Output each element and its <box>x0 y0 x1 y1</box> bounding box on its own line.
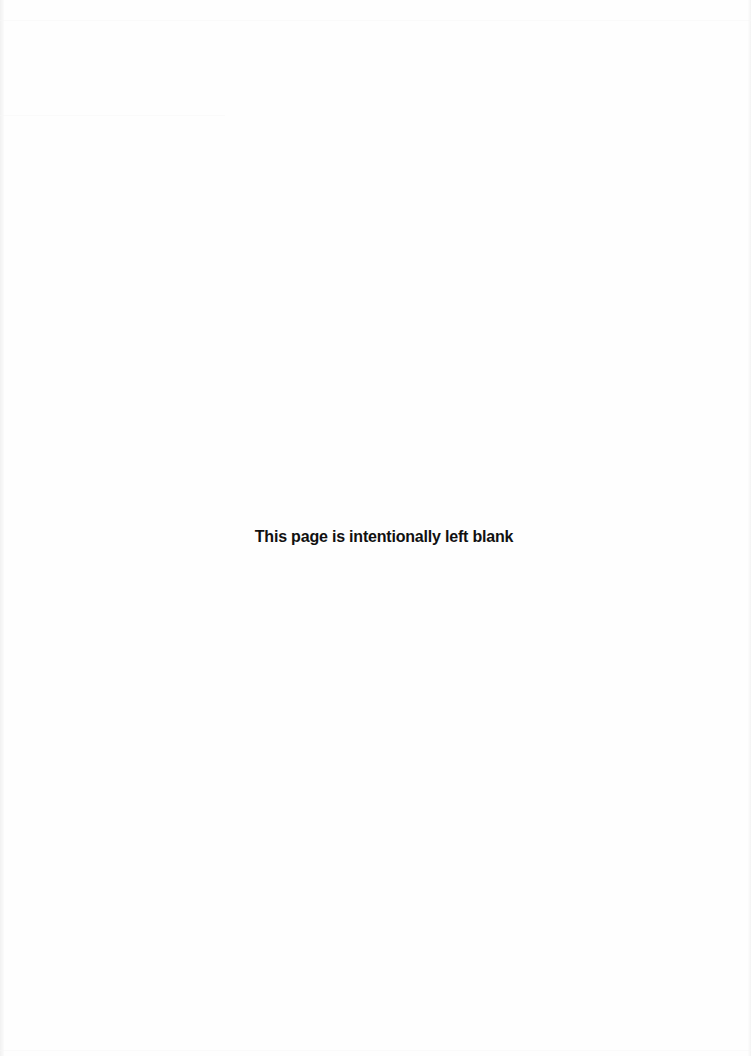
blank-document-page: This page is intentionally left blank <box>0 0 751 1056</box>
scan-bleed-through-line <box>0 115 225 116</box>
intentionally-blank-notice: This page is intentionally left blank <box>0 526 751 548</box>
scan-bleed-through-line <box>0 1050 751 1051</box>
scan-bleed-through-line <box>0 20 751 21</box>
